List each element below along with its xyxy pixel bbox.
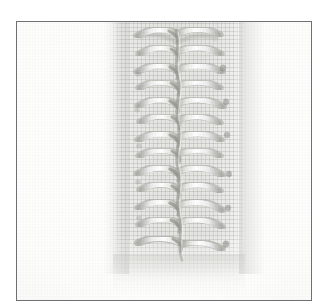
scan-grain-overlay: [17, 22, 311, 300]
figure-root: [0, 0, 323, 308]
plate-frame: [16, 21, 312, 301]
